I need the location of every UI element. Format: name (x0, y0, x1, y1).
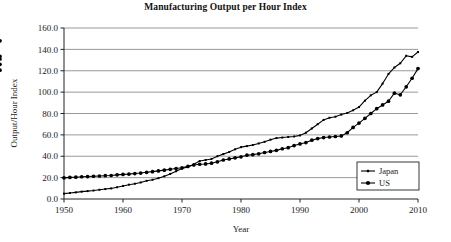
chart-plot-area: 0.020.040.060.080.0100.0120.0140.0160.0 … (0, 0, 451, 242)
data-point-marker (393, 67, 395, 69)
data-point-marker (63, 193, 65, 195)
legend-label-japan[interactable]: Japan (379, 166, 399, 176)
y-tick-label: 0.0 (47, 194, 59, 204)
x-tick-label: 1960 (114, 205, 133, 215)
data-point-marker (87, 190, 89, 192)
y-tick-label: 80.0 (42, 109, 58, 119)
data-point-marker (257, 152, 261, 156)
data-point-marker (205, 159, 207, 161)
x-tick-label: 1950 (55, 205, 74, 215)
data-point-marker (375, 107, 379, 111)
data-point-marker (246, 145, 248, 147)
data-point-marker (298, 142, 302, 146)
data-point-marker (222, 153, 224, 155)
data-point-marker (345, 131, 349, 135)
y-tick-label: 40.0 (42, 151, 58, 161)
data-point-marker (258, 142, 260, 144)
data-point-marker (287, 136, 289, 138)
data-point-marker (0, 62, 2, 66)
data-point-marker (369, 112, 373, 116)
data-point-marker (210, 161, 214, 165)
x-tick-label: 1970 (173, 205, 192, 215)
chart-container: Manufacturing Output per Hour Index 0.02… (0, 0, 451, 242)
data-point-marker (393, 91, 397, 95)
data-point-marker (328, 135, 332, 139)
data-point-marker (192, 163, 196, 167)
data-point-marker (98, 189, 100, 191)
data-point-marker (68, 176, 72, 180)
series-us (0, 39, 420, 180)
data-point-marker (376, 91, 378, 93)
data-point-marker (292, 144, 296, 148)
data-point-marker (116, 186, 118, 188)
data-point-marker (216, 160, 220, 164)
data-point-marker (316, 137, 320, 141)
x-axis-label: Year (233, 224, 250, 234)
data-point-marker (310, 138, 314, 142)
data-point-marker (134, 183, 136, 185)
data-point-marker (157, 177, 159, 179)
data-point-marker (151, 170, 155, 174)
data-point-marker (121, 173, 125, 177)
data-point-marker (358, 106, 360, 108)
y-tick-label: 140.0 (38, 45, 59, 55)
y-tick-label: 100.0 (38, 87, 59, 97)
data-point-marker (162, 168, 166, 172)
data-point-marker (317, 123, 319, 125)
data-point-marker (92, 174, 96, 178)
legend-label-us[interactable]: US (379, 178, 390, 188)
data-point-marker (98, 174, 102, 178)
data-point-marker (280, 147, 284, 151)
data-point-marker (93, 190, 95, 192)
data-point-marker (269, 150, 273, 154)
data-point-marker (186, 165, 190, 169)
data-point-marker (81, 191, 83, 193)
data-point-marker (233, 156, 237, 160)
x-axis-ticks: 1950196019701980199020002010 (55, 199, 428, 215)
data-point-marker (381, 103, 385, 107)
y-tick-label: 160.0 (38, 23, 59, 33)
data-point-marker (62, 176, 66, 180)
data-point-marker (146, 180, 148, 182)
data-point-marker (399, 62, 401, 64)
data-point-marker (275, 137, 277, 139)
x-tick-label: 2000 (350, 205, 369, 215)
series-line (64, 69, 418, 178)
data-point-marker (351, 126, 355, 130)
y-axis-ticks: 0.020.040.060.080.0100.0120.0140.0160.0 (38, 23, 64, 204)
data-point-marker (370, 94, 372, 96)
data-point-marker (363, 116, 367, 120)
data-point-marker (69, 192, 71, 194)
data-point-marker (110, 187, 112, 189)
data-point-marker (405, 55, 407, 57)
data-point-marker (417, 51, 419, 53)
data-point-marker (311, 127, 313, 129)
data-point-marker (180, 166, 184, 170)
data-point-marker (80, 175, 84, 179)
data-point-marker (411, 56, 413, 58)
data-point-marker (145, 170, 149, 174)
data-point-marker (240, 146, 242, 148)
data-point-marker (127, 172, 131, 176)
data-point-marker (410, 76, 414, 80)
data-point-marker (122, 185, 124, 187)
data-point-marker (199, 160, 201, 162)
data-point-marker (133, 172, 137, 176)
data-point-marker (204, 162, 208, 166)
data-point-marker (398, 93, 402, 97)
data-point-marker (334, 116, 336, 118)
data-point-marker (251, 153, 255, 157)
data-point-marker (245, 153, 249, 157)
data-point-marker (115, 173, 119, 177)
data-point-marker (352, 109, 354, 111)
data-point-marker (228, 151, 230, 153)
data-point-marker (140, 181, 142, 183)
data-point-marker (334, 135, 338, 139)
data-point-marker (0, 54, 2, 58)
data-point-marker (270, 139, 272, 141)
legend-marker-japan (367, 170, 369, 172)
data-point-marker (322, 136, 326, 140)
data-point-marker (263, 151, 267, 155)
chart-legend[interactable]: JapanUS (357, 162, 419, 190)
data-point-marker (340, 114, 342, 116)
